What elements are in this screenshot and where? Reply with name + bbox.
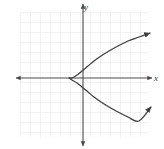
background-grid <box>20 12 148 137</box>
coordinate-graph: x y <box>0 0 164 149</box>
x-axis-label: x <box>153 73 158 83</box>
y-axis-label: y <box>83 2 88 12</box>
parabola-figure: x y <box>0 0 164 149</box>
